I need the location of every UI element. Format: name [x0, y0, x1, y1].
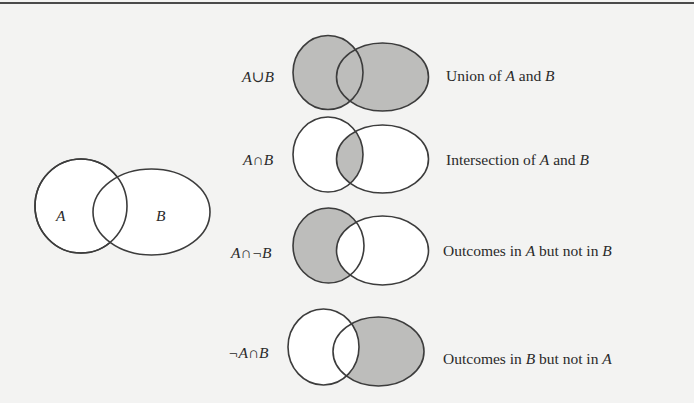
- b-not-a-expression: ¬A∩B: [228, 345, 269, 361]
- a-not-b-expression: A∩¬B: [231, 245, 272, 261]
- intersection-venn: [293, 117, 429, 193]
- union-venn: [293, 36, 429, 112]
- a-not-b-venn: [293, 208, 429, 285]
- b-not-a-description: Outcomes in B but not in A: [443, 351, 612, 367]
- set-a-label: A: [56, 208, 65, 224]
- intersection-expression: A∩B: [243, 152, 273, 168]
- set-b-label: B: [156, 208, 165, 224]
- union-description: Union of A and B: [446, 68, 555, 84]
- intersection-description: Intersection of A and B: [446, 152, 589, 168]
- union-expression: A∪B: [242, 69, 274, 85]
- venn-diagrams: [0, 0, 694, 403]
- a-not-b-description: Outcomes in A but not in B: [443, 243, 612, 259]
- b-not-a-venn: [288, 309, 424, 386]
